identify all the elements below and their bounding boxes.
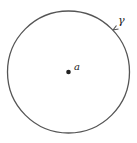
contour-diagram: γ a: [0, 0, 137, 143]
curve-label: γ: [118, 14, 125, 27]
point-label: a: [74, 61, 80, 72]
center-point: [66, 70, 71, 75]
diagram: γ a: [0, 0, 137, 143]
